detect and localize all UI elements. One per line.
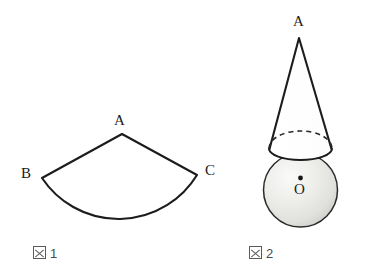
sphere-center-dot xyxy=(298,176,303,181)
figure-2-cone-on-sphere xyxy=(264,38,338,227)
figure-1-caption-number: 1 xyxy=(50,246,58,261)
figure-1-caption: 1 xyxy=(33,245,58,260)
cone-apex-label-a: A xyxy=(293,14,304,29)
cone-body xyxy=(270,38,332,160)
figure-kanji-icon xyxy=(249,246,262,259)
sector-apex-label-a: A xyxy=(114,113,125,128)
sphere-center-label-o: O xyxy=(294,182,305,197)
sector-arc-end-label-c: C xyxy=(205,163,215,178)
figure-1-sector xyxy=(42,134,197,219)
figure-2-caption: 2 xyxy=(249,245,274,260)
figure-kanji-icon xyxy=(33,246,46,259)
figure-2-caption-number: 2 xyxy=(266,246,274,261)
sector-outline xyxy=(42,134,197,219)
sector-arc-start-label-b: B xyxy=(21,166,31,181)
geometry-figure-canvas xyxy=(0,0,374,278)
